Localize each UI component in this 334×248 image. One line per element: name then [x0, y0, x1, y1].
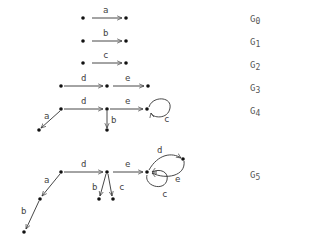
- edge-label: c: [103, 50, 108, 60]
- edge-label: b: [103, 28, 108, 38]
- graph-label-G1: G1: [250, 37, 260, 47]
- edge-label: b: [21, 206, 26, 216]
- edge-label: c: [162, 189, 167, 199]
- edge-label: d: [81, 159, 86, 169]
- edge-label: b: [92, 182, 97, 192]
- edge-label: a: [44, 111, 49, 121]
- node-dot: [111, 197, 115, 201]
- graph-label-subscript: 4: [255, 109, 260, 118]
- edge-c: [108, 174, 112, 196]
- graph-label-G3: G3: [250, 83, 260, 93]
- graph-G4: deabc: [37, 96, 170, 132]
- graph-G3: de: [59, 73, 150, 88]
- node-dot: [59, 170, 63, 174]
- edge-label: d: [81, 73, 86, 83]
- node-dot: [38, 197, 42, 201]
- edge-label: a: [44, 175, 49, 185]
- node-dot: [145, 170, 149, 174]
- node-dot: [181, 157, 185, 161]
- node-dot: [105, 170, 109, 174]
- node-dot: [22, 230, 26, 234]
- graph-label-subscript: 3: [255, 86, 260, 95]
- edge-b: [100, 174, 106, 196]
- curved-edge-d: [149, 155, 181, 170]
- graph-G5: deabbcdec: [21, 145, 185, 234]
- edge-label: e: [125, 73, 130, 83]
- node-dot: [105, 128, 109, 132]
- node-dot: [105, 107, 109, 111]
- node-dot: [81, 61, 85, 65]
- edge-b: [26, 201, 39, 229]
- curved-edge-c: [147, 170, 168, 186]
- edge-label: e: [125, 159, 130, 169]
- graph-label-G5: G5: [250, 170, 260, 180]
- node-dot: [97, 197, 101, 201]
- node-dot: [124, 39, 128, 43]
- node-dot: [37, 128, 41, 132]
- edge-label: d: [157, 145, 162, 155]
- node-dot: [59, 107, 63, 111]
- edge-label: a: [103, 5, 108, 15]
- graph-label-G2: G2: [250, 60, 260, 70]
- node-dot: [145, 107, 149, 111]
- graph-label-G4: G4: [250, 106, 260, 116]
- edge-label: c: [164, 114, 169, 124]
- node-dot: [124, 16, 128, 20]
- node-dot: [124, 61, 128, 65]
- edge-label: c: [119, 182, 124, 192]
- edge-label: e: [175, 174, 180, 184]
- node-dot: [81, 39, 85, 43]
- graph-label-subscript: 0: [255, 17, 260, 26]
- graph-G2: c: [81, 50, 128, 65]
- edge-label: e: [125, 96, 130, 106]
- graph-G1: b: [81, 28, 128, 43]
- graph-label-G0: G0: [250, 14, 260, 24]
- graph-G0: a: [81, 5, 128, 20]
- edge-label: b: [111, 115, 116, 125]
- graph-sequence-diagram: abcdedeabcdeabbcdec: [0, 0, 334, 248]
- graph-label-subscript: 2: [255, 63, 260, 72]
- graph-label-subscript: 1: [255, 40, 260, 49]
- node-dot: [146, 84, 150, 88]
- graph-label-subscript: 5: [255, 173, 260, 182]
- node-dot: [105, 84, 109, 88]
- node-dot: [81, 16, 85, 20]
- node-dot: [59, 84, 63, 88]
- edge-label: d: [81, 96, 86, 106]
